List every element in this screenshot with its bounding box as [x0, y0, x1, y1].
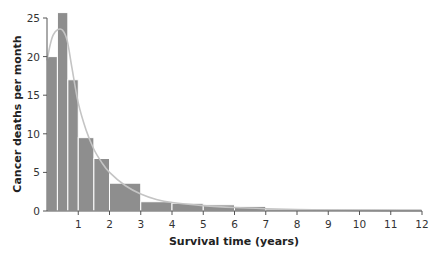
x-tick-label: 10 — [353, 218, 366, 230]
y-axis-title: Cancer deaths per month — [11, 35, 24, 192]
y-axis-ticks: 0510152025 — [27, 12, 47, 217]
x-tick-label: 11 — [384, 218, 397, 230]
x-tick-label: 2 — [106, 218, 113, 230]
y-tick-label: 15 — [27, 89, 40, 101]
histogram-bars — [47, 13, 422, 211]
x-axis-title: Survival time (years) — [169, 235, 299, 248]
x-tick-label: 8 — [294, 218, 301, 230]
y-tick-label: 25 — [27, 12, 40, 24]
y-tick-label: 5 — [33, 166, 40, 178]
x-tick-label: 5 — [200, 218, 207, 230]
histogram-bar — [110, 183, 141, 211]
histogram-bar — [68, 80, 78, 211]
x-tick-label: 1 — [75, 218, 82, 230]
x-tick-label: 7 — [262, 218, 269, 230]
x-tick-label: 6 — [231, 218, 238, 230]
histogram-bar — [78, 138, 94, 211]
y-tick-label: 20 — [27, 51, 40, 63]
y-tick-label: 10 — [27, 128, 40, 140]
x-tick-label: 4 — [169, 218, 176, 230]
x-tick-label: 12 — [415, 218, 428, 230]
histogram-bar — [47, 57, 57, 211]
x-tick-label: 3 — [137, 218, 144, 230]
y-tick-label: 0 — [33, 205, 40, 217]
histogram-bar — [57, 13, 67, 211]
histogram-bar — [94, 159, 110, 211]
x-tick-label: 9 — [325, 218, 332, 230]
histogram-chart: 123456789101112 0510152025 Survival time… — [0, 0, 441, 260]
histogram-bar — [141, 202, 172, 211]
x-axis-ticks: 123456789101112 — [75, 211, 429, 230]
